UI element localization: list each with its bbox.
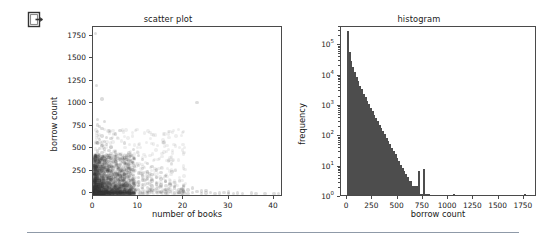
scatter-point: [120, 139, 123, 142]
scatter-point: [254, 192, 257, 195]
scatter-point: [108, 154, 111, 157]
scatter-point: [158, 157, 161, 160]
scatter-points-layer: [93, 27, 281, 195]
bottom-divider: [27, 232, 519, 233]
scatter-point: [145, 141, 148, 144]
scatter-point: [124, 187, 127, 190]
scatter-point: [150, 142, 153, 145]
scatter-point: [144, 155, 147, 158]
scatter-point: [102, 190, 105, 193]
scatter-x-tickmark: [137, 196, 138, 199]
scatter-x-tickmark: [273, 196, 274, 199]
scatter-point: [121, 187, 124, 190]
scatter-point: [124, 162, 127, 165]
scatter-x-tick-label: 0: [90, 201, 95, 210]
histogram-x-tick-label: 500: [390, 201, 404, 210]
scatter-point: [195, 101, 198, 104]
scatter-point: [178, 146, 181, 149]
scatter-point: [100, 134, 103, 137]
scatter-point: [119, 184, 122, 187]
scatter-y-tick-label: 0: [46, 188, 86, 197]
scatter-point: [100, 144, 103, 147]
scatter-point: [171, 131, 174, 134]
scatter-point: [153, 167, 156, 170]
scatter-axes-frame: [92, 26, 282, 196]
histogram-x-tick-label: 250: [364, 201, 378, 210]
scatter-point: [137, 180, 140, 183]
scatter-point: [113, 151, 116, 154]
scatter-point: [131, 134, 134, 137]
scatter-point: [213, 192, 216, 195]
scatter-panel: scatter plot borrow count 02505007501000…: [48, 14, 288, 214]
histogram-x-tick-label: 1500: [488, 201, 507, 210]
scatter-point: [165, 144, 168, 147]
scatter-point: [94, 147, 97, 150]
scatter-point: [161, 138, 164, 141]
histogram-x-tickmark: [371, 196, 372, 199]
scatter-point: [100, 97, 103, 100]
scatter-point: [121, 128, 124, 131]
histogram-y-tick-label: 100: [294, 192, 334, 201]
histogram-x-tick-label: 0: [344, 201, 349, 210]
scatter-point: [119, 161, 122, 164]
histogram-x-tick-label: 1250: [463, 201, 482, 210]
scatter-point: [168, 178, 171, 181]
scatter-point: [131, 131, 134, 134]
scatter-point: [181, 131, 184, 134]
histogram-x-axis-label: borrow count: [340, 209, 536, 219]
scatter-point: [179, 188, 182, 191]
scatter-point: [112, 132, 115, 135]
scatter-point: [124, 128, 127, 131]
scatter-point: [139, 146, 142, 149]
scatter-point: [140, 192, 143, 195]
scatter-point: [123, 141, 126, 144]
scatter-point: [146, 129, 149, 132]
scatter-y-tick-label: 500: [46, 143, 86, 152]
scatter-point: [105, 140, 108, 143]
scatter-point: [174, 144, 177, 147]
scatter-point: [183, 146, 186, 149]
scatter-x-tick-label: 10: [133, 201, 142, 210]
scatter-point: [218, 191, 221, 194]
scatter-point: [94, 32, 97, 35]
scatter-point: [103, 120, 106, 123]
histogram-x-tickmark: [472, 196, 473, 199]
histogram-bar: [418, 171, 420, 195]
scatter-point: [125, 191, 128, 194]
scatter-y-tick-label: 1500: [46, 53, 86, 62]
scatter-point: [200, 189, 203, 192]
scatter-point: [96, 118, 99, 121]
histogram-x-tickmark: [397, 196, 398, 199]
scatter-point: [182, 174, 185, 177]
scatter-point: [126, 158, 129, 161]
scatter-point: [151, 152, 154, 155]
scatter-y-tick-label: 1750: [46, 30, 86, 39]
scatter-point: [162, 150, 165, 153]
scatter-point: [162, 132, 165, 135]
scatter-point: [204, 189, 207, 192]
scatter-point: [108, 131, 111, 134]
histogram-bars-layer: [341, 27, 535, 195]
scatter-point: [195, 190, 198, 193]
scatter-point: [183, 168, 186, 171]
histogram-x-tickmark: [523, 196, 524, 199]
scatter-point: [144, 182, 147, 185]
scatter-plot-title: scatter plot: [48, 14, 288, 24]
scatter-point: [96, 141, 99, 144]
scatter-point: [180, 134, 183, 137]
scatter-y-tick-label: 1250: [46, 75, 86, 84]
scatter-point: [138, 142, 141, 145]
scatter-point: [177, 128, 180, 131]
scatter-point: [126, 136, 129, 139]
scatter-point: [143, 171, 146, 174]
scatter-point: [97, 133, 100, 136]
scatter-point: [135, 165, 138, 168]
scatter-point: [95, 136, 98, 139]
scatter-point: [103, 173, 106, 176]
scatter-point: [137, 154, 140, 157]
scatter-point: [236, 191, 239, 194]
scatter-point: [111, 136, 114, 139]
scatter-point: [111, 168, 114, 171]
scatter-point: [105, 136, 108, 139]
histogram-y-tickmark: [337, 196, 340, 197]
